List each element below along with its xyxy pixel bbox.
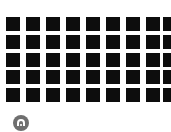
grid-square [46,70,60,84]
grid-square [126,17,140,31]
grid-square [26,88,40,102]
grid-square [26,17,40,31]
grid-square [163,17,171,31]
grid-square [86,17,100,31]
grid-square [6,35,20,49]
grid-square [146,53,160,67]
grid-square [26,35,40,49]
grid-square [106,53,120,67]
round-badge[interactable] [13,115,29,131]
grid-square [66,35,80,49]
grid-square [106,88,120,102]
grid-square [66,53,80,67]
grid-square [6,88,20,102]
grid-square [106,17,120,31]
grid-square [126,88,140,102]
grid-square [66,70,80,84]
grid-square [26,70,40,84]
grid-square [126,70,140,84]
grid-square [46,88,60,102]
grid-square [86,53,100,67]
grid-square [146,17,160,31]
grid-square [163,70,171,84]
grid-square [163,53,171,67]
grid-square [46,17,60,31]
grid-square [163,88,171,102]
grid-square [6,53,20,67]
grid-square [86,70,100,84]
grid-square [146,70,160,84]
grid-square [86,35,100,49]
grid-square [26,53,40,67]
grid-square [163,35,171,49]
grid-square [86,88,100,102]
grid-square [146,35,160,49]
arch-icon [16,118,26,128]
grid-square [126,35,140,49]
grid-square [126,53,140,67]
grid-square [6,70,20,84]
grid-square [66,88,80,102]
grid-square [106,35,120,49]
grid-square [146,88,160,102]
grid-square [46,53,60,67]
grid-square [6,17,20,31]
grid-square [66,17,80,31]
grid-square [46,35,60,49]
grid-square [106,70,120,84]
